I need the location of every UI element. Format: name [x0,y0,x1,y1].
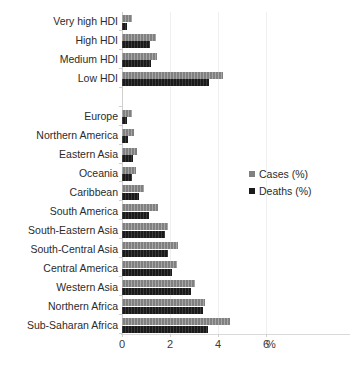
value-tick-label: 4 [215,338,221,350]
bar-cases [122,280,195,287]
category-label: South-Eastern Asia [0,224,118,236]
bar-deaths [122,212,149,219]
value-tick-mark [170,334,171,337]
bar-cases [122,53,157,60]
value-tick-mark [266,334,267,337]
value-tick-label: 2 [167,338,173,350]
category-label: Northern Africa [0,300,118,312]
legend-swatch-deaths-icon [249,188,255,194]
category-label: Medium HDI [0,53,118,65]
category-label: Central America [0,262,118,274]
bar-deaths [122,307,203,314]
category-label: Low HDI [0,72,118,84]
bar-cases [122,72,223,79]
category-label: Northern America [0,129,118,141]
bar-cases [122,223,168,230]
category-label: Caribbean [0,186,118,198]
legend-label-cases: Cases (%) [259,168,308,180]
bar-cases [122,34,156,41]
bar-cases [122,204,158,211]
bar-cases [122,148,137,155]
category-label: Very high HDI [0,15,118,27]
bar-deaths [122,288,191,295]
category-label: Sub-Saharan Africa [0,319,118,331]
legend-label-deaths: Deaths (%) [259,185,312,197]
axis-unit-label: % [266,338,276,350]
bar-deaths [122,193,139,200]
bar-deaths [122,174,132,181]
value-tick-mark [218,334,219,337]
bar-deaths [122,136,128,143]
legend-item-cases: Cases (%) [249,168,349,180]
bar-cases [122,242,178,249]
category-label: South-Central Asia [0,243,118,255]
legend-swatch-cases-icon [249,171,255,177]
bar-deaths [122,250,168,257]
bar-deaths [122,79,209,86]
category-label: Oceania [0,167,118,179]
legend-item-deaths: Deaths (%) [249,185,349,197]
chart-container: Very high HDIHigh HDIMedium HDILow HDIEu… [0,0,352,366]
bar-deaths [122,117,127,124]
bar-cases [122,129,134,136]
bar-cases [122,167,136,174]
category-label: Eastern Asia [0,148,118,160]
value-axis: 0246 [122,334,352,356]
bar-deaths [122,269,172,276]
bar-deaths [122,231,165,238]
category-label: South America [0,205,118,217]
bar-cases [122,15,132,22]
bar-cases [122,299,205,306]
category-label: Western Asia [0,281,118,293]
bar-deaths [122,155,133,162]
value-tick-label: 0 [119,338,125,350]
bar-deaths [122,23,127,30]
chart-legend: Cases (%) Deaths (%) [249,168,349,202]
category-axis-labels: Very high HDIHigh HDIMedium HDILow HDIEu… [0,12,118,334]
bar-deaths [122,41,150,48]
bar-deaths [122,60,151,67]
bar-deaths [122,326,208,333]
bar-cases [122,318,230,325]
bar-cases [122,185,144,192]
category-label: High HDI [0,34,118,46]
value-tick-mark [122,334,123,337]
bar-cases [122,261,177,268]
bar-cases [122,110,132,117]
category-label: Europe [0,110,118,122]
